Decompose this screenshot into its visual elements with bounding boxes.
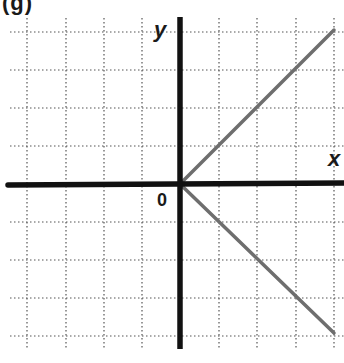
line-y-equals-x bbox=[180, 30, 334, 184]
y-axis-label: y bbox=[154, 17, 166, 43]
x-axis bbox=[8, 183, 344, 185]
panel-label: (g) bbox=[2, 0, 33, 16]
graph-figure: (g) y x 0 bbox=[0, 0, 344, 363]
origin-label: 0 bbox=[157, 190, 167, 211]
coordinate-plane bbox=[0, 0, 344, 363]
x-axis-label: x bbox=[328, 146, 340, 172]
